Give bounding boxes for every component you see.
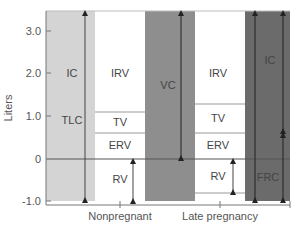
ytick-2: 2.0 — [26, 67, 41, 79]
ytick-3: 3.0 — [26, 25, 41, 37]
label-lp-erv: ERV — [207, 139, 230, 151]
label-np-tv: TV — [113, 116, 128, 128]
label-tlc: TLC — [62, 114, 83, 126]
tlc-column — [46, 11, 95, 201]
y-axis-label: Liters — [2, 94, 14, 121]
label-lp-irv: IRV — [209, 67, 228, 79]
ytick-neg1: -1.0 — [22, 195, 41, 207]
label-vc: VC — [160, 79, 175, 91]
label-frc: FRC — [257, 171, 280, 183]
label-lp-rv: RV — [210, 170, 226, 182]
label-np-irv: IRV — [111, 67, 130, 79]
category-nonpregnant: Nonpregnant — [88, 210, 152, 222]
label-left-ic: IC — [67, 67, 78, 79]
label-np-erv: ERV — [109, 139, 132, 151]
lung-volumes-chart: 3.0 2.0 1.0 0 -1.0 Liters IC TLC IRV TV … — [0, 0, 298, 232]
ytick-0: 0 — [35, 153, 41, 165]
label-right-ic: IC — [265, 54, 276, 66]
label-lp-tv: TV — [211, 112, 226, 124]
vc-column — [145, 11, 195, 201]
label-np-rv: RV — [112, 173, 128, 185]
category-late-pregnancy: Late pregnancy — [182, 210, 258, 222]
ytick-1: 1.0 — [26, 110, 41, 122]
